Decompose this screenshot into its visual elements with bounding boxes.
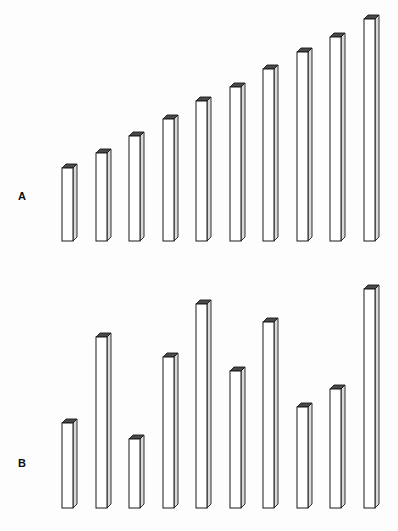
bar-b-2 <box>96 333 111 508</box>
panel-label-b: B <box>18 457 26 469</box>
bar-side-face <box>107 149 111 241</box>
bar-side-face <box>174 353 178 508</box>
bar-front-face <box>330 389 341 508</box>
bar-front-face <box>364 289 375 508</box>
bar-side-face <box>341 385 345 508</box>
bar-b-3 <box>129 435 144 508</box>
bar-side-face <box>140 132 144 241</box>
bar-a-3 <box>129 132 144 241</box>
bar-side-face <box>241 83 245 241</box>
bar-side-face <box>375 285 379 508</box>
bar-side-face <box>308 403 312 508</box>
bar-a-10 <box>364 15 379 241</box>
bar-front-face <box>263 69 274 241</box>
bar-side-face <box>341 33 345 241</box>
bar-front-face <box>129 439 140 508</box>
bar-side-face <box>174 115 178 241</box>
bar-a-1 <box>62 164 77 241</box>
bar-b-4 <box>163 353 178 508</box>
bar-front-face <box>62 423 73 508</box>
bar-front-face <box>364 19 375 241</box>
bar-front-face <box>163 357 174 508</box>
bar-a-7 <box>263 65 278 241</box>
bar-front-face <box>163 119 174 241</box>
bar-side-face <box>107 333 111 508</box>
bar-front-face <box>263 322 274 508</box>
bar-b-6 <box>230 367 245 508</box>
bar-side-face <box>308 48 312 241</box>
bar-front-face <box>96 337 107 508</box>
bar-a-4 <box>163 115 178 241</box>
panel-b-bar-group <box>62 285 379 508</box>
bar-side-face <box>207 97 211 241</box>
bar-b-9 <box>330 385 345 508</box>
bar-front-face <box>297 52 308 241</box>
bar-front-face <box>196 101 207 241</box>
bar-a-5 <box>196 97 211 241</box>
bar-side-face <box>274 65 278 241</box>
bar-b-5 <box>196 300 211 508</box>
bar-front-face <box>297 407 308 508</box>
bar-side-face <box>375 15 379 241</box>
panel-label-a: A <box>18 190 26 202</box>
bar-front-face <box>230 371 241 508</box>
bar-side-face <box>241 367 245 508</box>
bar-front-face <box>62 168 73 241</box>
bar-b-10 <box>364 285 379 508</box>
bar-b-1 <box>62 419 77 508</box>
bar-side-face <box>140 435 144 508</box>
bar-side-face <box>73 164 77 241</box>
bar-side-face <box>207 300 211 508</box>
bar-side-face <box>73 419 77 508</box>
bar-chart-svg <box>0 0 398 531</box>
bar-front-face <box>96 153 107 241</box>
panel-a-bar-group <box>62 15 379 241</box>
bar-b-8 <box>297 403 312 508</box>
bar-front-face <box>196 304 207 508</box>
bar-a-8 <box>297 48 312 241</box>
bar-front-face <box>129 136 140 241</box>
bar-a-9 <box>330 33 345 241</box>
figure-canvas: A B <box>0 0 398 531</box>
bar-b-7 <box>263 318 278 508</box>
bar-a-2 <box>96 149 111 241</box>
bar-front-face <box>330 37 341 241</box>
bar-front-face <box>230 87 241 241</box>
bar-side-face <box>274 318 278 508</box>
bar-a-6 <box>230 83 245 241</box>
